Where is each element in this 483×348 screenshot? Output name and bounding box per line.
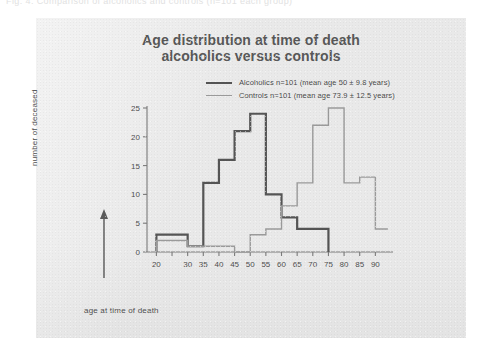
legend-label-alcoholics: Alcoholics n=101 (mean age 50 ± 9.8 year… <box>239 78 390 87</box>
plot-area: 05101520252030354045505560657075808590 <box>119 102 394 276</box>
svg-text:25: 25 <box>131 104 140 113</box>
y-axis-title: number of deceased <box>30 46 39 166</box>
svg-text:90: 90 <box>371 260 380 269</box>
svg-text:60: 60 <box>277 260 286 269</box>
svg-text:20: 20 <box>152 260 161 269</box>
svg-text:70: 70 <box>308 260 317 269</box>
svg-text:0: 0 <box>136 248 141 257</box>
svg-text:30: 30 <box>183 260 192 269</box>
chart-title: Age distribution at time of death alcoho… <box>36 32 466 64</box>
svg-text:5: 5 <box>136 219 141 228</box>
scan-top-caption-text: Fig. 4. Comparison of alcoholics and con… <box>6 0 293 6</box>
svg-text:20: 20 <box>131 133 140 142</box>
svg-text:15: 15 <box>131 162 140 171</box>
series-group <box>156 108 387 252</box>
svg-text:40: 40 <box>214 260 223 269</box>
svg-text:55: 55 <box>261 260 270 269</box>
chart-title-line2: alcoholics versus controls <box>36 48 466 64</box>
y-axis-arrow-icon <box>98 208 110 280</box>
svg-text:75: 75 <box>324 260 333 269</box>
svg-text:85: 85 <box>355 260 364 269</box>
chart-svg: 05101520252030354045505560657075808590 <box>119 102 394 276</box>
svg-text:35: 35 <box>199 260 208 269</box>
figure-panel: Age distribution at time of death alcoho… <box>36 18 466 338</box>
legend-label-controls: Controls n=101 (mean age 73.9 ± 12.5 yea… <box>239 91 395 100</box>
chart-title-line1: Age distribution at time of death <box>142 32 360 48</box>
svg-text:45: 45 <box>230 260 239 269</box>
svg-text:65: 65 <box>293 260 302 269</box>
svg-text:50: 50 <box>246 260 255 269</box>
legend-swatch-alcoholics-icon <box>206 82 232 84</box>
scan-top-caption-fragment: Fig. 4. Comparison of alcoholics and con… <box>0 0 483 12</box>
chart-legend: Alcoholics n=101 (mean age 50 ± 9.8 year… <box>206 76 395 102</box>
svg-text:10: 10 <box>131 190 140 199</box>
x-axis-title: age at time of death <box>84 306 159 315</box>
legend-swatch-controls-icon <box>206 95 232 96</box>
svg-text:80: 80 <box>340 260 349 269</box>
legend-item-alcoholics: Alcoholics n=101 (mean age 50 ± 9.8 year… <box>206 76 395 89</box>
legend-item-controls: Controls n=101 (mean age 73.9 ± 12.5 yea… <box>206 89 395 102</box>
axes-group: 05101520252030354045505560657075808590 <box>131 104 393 269</box>
